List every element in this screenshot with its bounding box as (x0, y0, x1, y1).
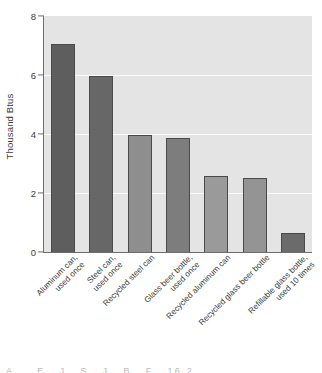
y-tick-label: 0 (31, 247, 36, 258)
y-axis-title: Thousand Btus (0, 0, 20, 252)
bar[interactable] (128, 135, 152, 252)
y-tick-label: 2 (31, 188, 36, 199)
gridline (44, 134, 312, 135)
bar-chart-figure: Thousand Btus 02468 Aluminum can,used on… (0, 0, 322, 373)
bar[interactable] (166, 138, 190, 252)
y-tick-label: 4 (31, 129, 36, 140)
x-axis-tick-labels: Aluminum can,used onceSteel can,used onc… (44, 253, 312, 363)
y-tick-mark (38, 74, 44, 75)
plot-area (44, 16, 312, 252)
y-axis-title-text: Thousand Btus (5, 93, 16, 159)
bar[interactable] (281, 233, 305, 252)
bar[interactable] (204, 176, 228, 252)
bar[interactable] (51, 44, 75, 252)
bottom-caption: A . . E . J . S . J . B . F . 16.2 (6, 366, 306, 373)
x-tick-label: Aluminum can,used once (35, 253, 87, 305)
y-tick-mark (38, 15, 44, 16)
bar[interactable] (89, 76, 113, 252)
y-tick-label: 6 (31, 70, 36, 81)
gridline (44, 75, 312, 76)
bar[interactable] (243, 178, 267, 252)
y-tick-mark (38, 133, 44, 134)
y-axis-tick-labels: 02468 (20, 0, 40, 260)
y-tick-mark (38, 192, 44, 193)
y-tick-label: 8 (31, 11, 36, 22)
y-tick-mark (38, 251, 44, 252)
